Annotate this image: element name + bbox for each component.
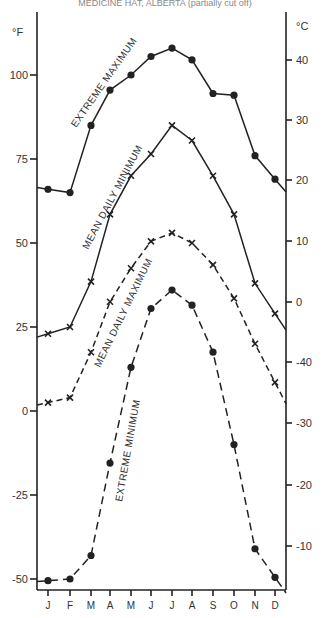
month-label: O <box>230 600 238 611</box>
chart-title: MEDICINE HAT, ALBERTA (partially cut off… <box>78 0 251 8</box>
data-point-dot <box>147 53 154 60</box>
extreme-min-curve-line <box>37 290 286 593</box>
data-point-x <box>272 311 278 317</box>
left-tick-label: 75 <box>16 153 28 165</box>
data-point-x <box>169 230 175 236</box>
data-point-dot <box>87 552 94 559</box>
data-point-dot <box>44 577 51 584</box>
data-point-dot <box>106 459 113 466</box>
left-tick-label: 100 <box>10 69 28 81</box>
data-point-dot <box>87 122 94 129</box>
right-tick-label: 20 <box>296 174 308 186</box>
data-point-dot <box>209 349 216 356</box>
left-tick-label: 0 <box>22 405 28 417</box>
left-tick-label: -50 <box>12 573 28 585</box>
data-point-dot <box>230 92 237 99</box>
data-point-x <box>148 238 154 244</box>
right-tick-label: -10 <box>296 540 312 552</box>
month-label: M <box>87 600 95 611</box>
data-point-x <box>252 341 258 347</box>
data-point-x <box>231 295 237 301</box>
right-tick-label: 40 <box>296 54 308 66</box>
left-tick-label: 50 <box>16 237 28 249</box>
month-label: F <box>67 600 73 611</box>
data-point-x <box>272 379 278 385</box>
data-point-dot <box>251 152 258 159</box>
temperature-chart: MEDICINE HAT, ALBERTA (partially cut off… <box>0 0 327 618</box>
data-point-dot <box>127 71 134 78</box>
data-point-x <box>210 173 216 179</box>
right-tick-label: -20 <box>296 479 312 491</box>
data-point-dot <box>188 56 195 63</box>
data-point-x <box>210 262 216 268</box>
right-tick-label: 0 <box>296 296 302 308</box>
curve-labels: EXTREME MAXIMUM MEAN DAILY MINIMUM MEAN … <box>69 35 155 502</box>
data-point-dot <box>251 545 258 552</box>
mean-upper-curve-line <box>37 125 286 337</box>
month-label: A <box>189 600 196 611</box>
data-point-dot <box>44 186 51 193</box>
data-point-dot <box>106 87 113 94</box>
data-point-x <box>169 122 175 128</box>
mean-upper-curve <box>37 122 286 337</box>
axes: °F°C1007550250-25-50403020100-40-30-20-1… <box>10 12 312 611</box>
data-point-dot <box>66 575 73 582</box>
label-extreme-min: EXTREME MINIMUM <box>113 398 142 502</box>
data-point-x <box>148 151 154 157</box>
left-unit-label: °F <box>12 26 23 38</box>
label-extreme-max: EXTREME MAXIMUM <box>69 35 139 129</box>
right-tick-label: -30 <box>296 417 312 429</box>
data-point-dot <box>147 305 154 312</box>
data-point-dot <box>271 574 278 581</box>
data-point-dot <box>168 45 175 52</box>
data-point-dot <box>127 364 134 371</box>
data-point-dot <box>209 90 216 97</box>
label-mean-lower: MEAN DAILY MAXIMUM <box>92 256 154 368</box>
label-mean-upper: MEAN DAILY MINIMUM <box>80 143 144 251</box>
month-label: S <box>210 600 217 611</box>
right-unit-label: °C <box>296 20 308 32</box>
data-point-x <box>189 138 195 144</box>
right-tick-label: -40 <box>296 356 312 368</box>
month-label: J <box>149 600 154 611</box>
data-point-dot <box>66 189 73 196</box>
month-label: M <box>127 600 135 611</box>
data-point-dot <box>271 176 278 183</box>
chart-canvas: MEDICINE HAT, ALBERTA (partially cut off… <box>0 0 327 618</box>
month-label: D <box>271 600 278 611</box>
month-label: N <box>251 600 258 611</box>
extreme-min-curve <box>37 286 286 593</box>
data-point-x <box>189 240 195 246</box>
month-label: J <box>46 600 51 611</box>
month-label: A <box>107 600 114 611</box>
data-point-dot <box>188 302 195 309</box>
data-point-x <box>128 265 134 271</box>
data-point-dot <box>168 286 175 293</box>
right-tick-label: 30 <box>296 114 308 126</box>
data-point-dot <box>230 441 237 448</box>
left-tick-label: -25 <box>12 489 28 501</box>
right-tick-label: 10 <box>296 235 308 247</box>
month-label: J <box>170 600 175 611</box>
left-tick-label: 25 <box>16 321 28 333</box>
